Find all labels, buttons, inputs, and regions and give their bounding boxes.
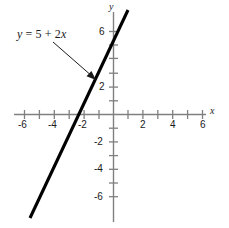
x-tick-label--2: -2 (78, 120, 87, 130)
x-tick-label-2: 2 (140, 120, 146, 130)
equation-intercept: 5 (36, 27, 42, 41)
linear-graph-figure: y=5+2x x y -6 -4 -2 2 4 6 6 2 -2 -4 -6 (0, 0, 229, 228)
equation-plus: + (45, 27, 52, 41)
x-axis-name: x (210, 106, 214, 116)
equation-variable: x (61, 27, 67, 41)
x-tick-label-6: 6 (200, 120, 206, 130)
equation-equals: = (26, 27, 33, 41)
y-axis-name: y (109, 2, 113, 12)
x-tick-label-4: 4 (170, 120, 176, 130)
y-tick-label--4: -4 (94, 164, 103, 174)
equation-lhs: y (17, 27, 23, 41)
y-tick-label--2: -2 (94, 137, 103, 147)
equation-annotation: y=5+2x (17, 27, 66, 42)
y-tick-label--6: -6 (94, 192, 103, 202)
annotation-arrow (53, 42, 96, 80)
y-tick-label-2: 2 (99, 82, 105, 92)
x-tick-label--6: -6 (18, 120, 27, 130)
y-tick-label-6: 6 (99, 27, 105, 37)
x-tick-label--4: -4 (48, 120, 57, 130)
